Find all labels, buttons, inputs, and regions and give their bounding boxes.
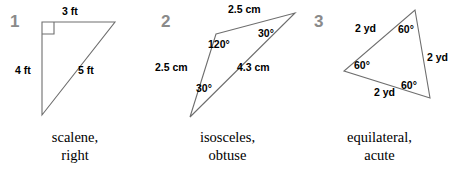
- caption-line-1: equilateral,: [305, 128, 454, 146]
- figure-3-equilateral-acute-triangle: 3 2 yd 2 yd 2 yd 60° 60° 60° equilateral…: [305, 0, 454, 172]
- base-side-label: 4.3 cm: [237, 62, 270, 73]
- figure-2-caption: isosceles, obtuse: [150, 128, 305, 164]
- hypotenuse-label: 5 ft: [78, 65, 94, 76]
- caption-line-1: isosceles,: [150, 128, 305, 146]
- right-side-label: 2 yd: [427, 52, 448, 63]
- right-angle-icon: [42, 22, 54, 34]
- figure-1-caption: scalene, right: [0, 128, 150, 164]
- angle-label-bottom-vertex: 30°: [196, 83, 212, 94]
- caption-line-1: scalene,: [0, 128, 150, 146]
- caption-line-2: obtuse: [150, 146, 305, 164]
- figure-index-3: 3: [314, 13, 323, 30]
- triangle-1-drawing: [0, 0, 150, 125]
- caption-line-2: right: [0, 146, 150, 164]
- left-side-label: 2.5 cm: [155, 62, 188, 73]
- left-side-label: 4 ft: [15, 65, 31, 76]
- top-side-label: 3 ft: [62, 6, 78, 17]
- top-side-label: 2.5 cm: [228, 4, 261, 15]
- angle-label-left: 60°: [354, 60, 370, 71]
- angle-label-top: 60°: [398, 24, 414, 35]
- angle-label-bottom-right: 60°: [401, 80, 417, 91]
- angle-label-obtuse: 120°: [208, 39, 230, 50]
- diagram-canvas: 1 3 ft 4 ft 5 ft scalene, right 2 2.5 cm…: [0, 0, 454, 172]
- figure-1-scalene-right-triangle: 1 3 ft 4 ft 5 ft scalene, right: [0, 0, 150, 172]
- bottom-side-label: 2 yd: [374, 87, 395, 98]
- upper-left-side-label: 2 yd: [355, 23, 376, 34]
- figure-index-1: 1: [10, 13, 19, 30]
- caption-line-2: acute: [305, 146, 454, 164]
- figure-3-caption: equilateral, acute: [305, 128, 454, 164]
- figure-index-2: 2: [161, 13, 170, 30]
- angle-label-right-vertex: 30°: [258, 28, 274, 39]
- figure-2-isosceles-obtuse-triangle: 2 2.5 cm 2.5 cm 4.3 cm 120° 30° 30° isos…: [150, 0, 305, 172]
